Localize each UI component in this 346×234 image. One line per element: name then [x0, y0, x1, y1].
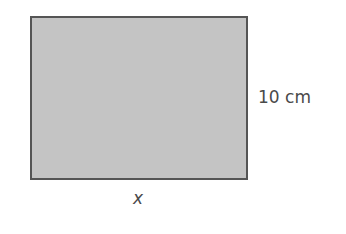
width-label: x [133, 188, 143, 208]
height-label: 10 cm [258, 87, 311, 107]
rectangle-shape [30, 16, 248, 180]
